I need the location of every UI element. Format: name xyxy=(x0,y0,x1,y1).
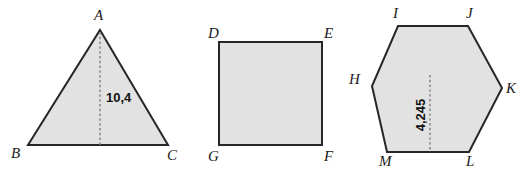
square-vertex-label-g: G xyxy=(208,148,219,164)
triangle-vertex-label-c: C xyxy=(167,147,178,163)
triangle-vertex-label-b: B xyxy=(11,145,20,161)
triangle-shape xyxy=(28,30,168,145)
hexagon-vertex-label-j: J xyxy=(466,5,474,21)
square-shape xyxy=(219,42,322,145)
hexagon-figure: I J K L M H 4,245 xyxy=(348,5,517,169)
hexagon-shape xyxy=(372,26,502,152)
square-vertex-label-d: D xyxy=(207,25,219,41)
hexagon-vertex-label-k: K xyxy=(505,80,517,96)
hexagon-vertex-label-m: M xyxy=(378,153,393,169)
triangle-figure: A B C 10,4 xyxy=(11,7,178,163)
hexagon-vertex-label-h: H xyxy=(348,71,361,87)
triangle-height-label: 10,4 xyxy=(106,90,132,105)
hexagon-height-label: 4,245 xyxy=(413,99,428,132)
square-vertex-label-e: E xyxy=(323,25,333,41)
figures-svg: A B C 10,4 D E G F I J K L M H 4,245 xyxy=(0,0,531,170)
hexagon-vertex-label-i: I xyxy=(392,5,399,21)
geometry-figure-canvas: A B C 10,4 D E G F I J K L M H 4,245 xyxy=(0,0,531,170)
triangle-vertex-label-a: A xyxy=(93,7,104,23)
square-figure: D E G F xyxy=(207,25,334,164)
square-vertex-label-f: F xyxy=(323,148,334,164)
hexagon-vertex-label-l: L xyxy=(465,153,474,169)
